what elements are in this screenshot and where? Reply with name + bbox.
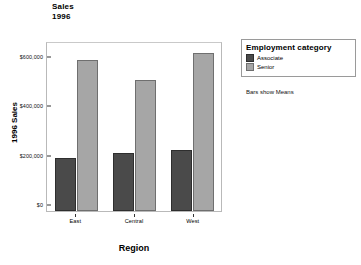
legend-title: Employment category (246, 43, 351, 52)
bar-group-west (163, 43, 221, 211)
x-tick-west: West (163, 214, 222, 224)
plot-inner: $0 $200,000 $400,000 $600,000 (47, 43, 221, 211)
bar-west-senior (193, 53, 214, 211)
bar-group-central (105, 43, 163, 211)
bar-east-senior (77, 60, 98, 211)
x-axis-title: Region (46, 243, 222, 253)
y-tick-1: $200,000 (20, 153, 47, 159)
legend-swatch-senior (246, 63, 254, 71)
bar-central-senior (135, 80, 156, 211)
y-axis-title: 1996 Sales (10, 81, 19, 165)
plot-area: $0 $200,000 $400,000 $600,000 (46, 42, 222, 212)
bar-central-associate (113, 153, 134, 211)
legend-swatch-associate (246, 54, 254, 62)
y-tick-0: $0 (37, 202, 47, 208)
legend-label-senior: Senior (257, 64, 274, 70)
legend-label-associate: Associate (257, 55, 283, 61)
x-axis-ticks: East Central West (46, 214, 222, 224)
chart-title-block: Sales 1996 (52, 2, 74, 22)
bar-west-associate (171, 150, 192, 211)
y-tick-2: $400,000 (20, 103, 47, 109)
legend-item-senior: Senior (246, 63, 351, 71)
legend-item-associate: Associate (246, 54, 351, 62)
x-tick-east: East (46, 214, 105, 224)
y-tick-3: $600,000 (20, 54, 47, 60)
bar-chart: Sales 1996 1996 Sales $0 $200,000 $400,0… (0, 0, 361, 265)
bar-group-east (47, 43, 105, 211)
bar-east-associate (55, 158, 76, 211)
chart-title: Sales (52, 2, 74, 12)
legend: Employment category Associate Senior (241, 39, 356, 77)
chart-subtitle: 1996 (52, 12, 74, 22)
bar-groups (47, 43, 221, 211)
chart-annotation: Bars show Means (246, 89, 294, 95)
x-tick-central: Central (105, 214, 164, 224)
